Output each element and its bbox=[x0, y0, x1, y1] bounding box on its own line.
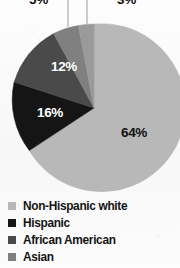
legend-item-non-hispanic-white[interactable]: Non-Hispanic white bbox=[8, 197, 133, 214]
legend-item-african-american[interactable]: African American bbox=[8, 231, 133, 248]
legend-label-non-hispanic-white: Non-Hispanic white bbox=[23, 199, 127, 213]
slice-value-non-hispanic-white: 64% bbox=[121, 125, 147, 140]
chart-legend: Non-Hispanic white Hispanic African Amer… bbox=[8, 197, 133, 265]
legend-label-hispanic: Hispanic bbox=[23, 216, 70, 230]
legend-swatch-icon-non-hispanic-white bbox=[8, 202, 16, 210]
callout-value-asian: 5% bbox=[29, 0, 48, 7]
legend-swatch-icon-african-american bbox=[8, 236, 16, 244]
legend-item-asian[interactable]: Asian bbox=[8, 248, 133, 265]
callout-value-other: 3% bbox=[117, 0, 136, 7]
slice-value-african-american: 12% bbox=[51, 59, 77, 74]
legend-swatch-icon-hispanic bbox=[8, 219, 16, 227]
legend-swatch-icon-asian bbox=[8, 253, 16, 261]
legend-label-asian: Asian bbox=[23, 250, 54, 264]
slice-value-hispanic: 16% bbox=[37, 105, 63, 120]
legend-item-hispanic[interactable]: Hispanic bbox=[8, 214, 133, 231]
legend-label-african-american: African American bbox=[23, 233, 116, 247]
